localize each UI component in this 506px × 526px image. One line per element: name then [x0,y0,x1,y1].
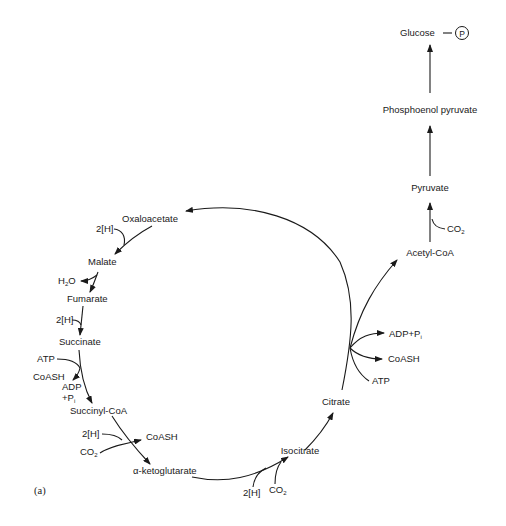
glucose-phosphate-node: Glucose P [400,27,469,40]
h2o-label: H2O [58,275,76,287]
phosphate-symbol: P [459,29,465,39]
succinyl-coa-label: Succinyl-CoA [70,405,128,416]
atp-succinate-label: ATP [37,353,55,364]
co2-akg-label: CO2 [80,446,98,458]
panel-label: (a) [34,485,46,497]
pep-label: Phosphoenol pyruvate [383,104,478,115]
fumarate-label: Fumarate [67,293,108,304]
coash-akg-label: CoASH [146,431,178,442]
pyruvate-label: Pyruvate [411,182,449,193]
adp-pi-citrate-label: ADP+Pi [389,328,422,340]
acetyl-coa-label: Acetyl-CoA [406,247,454,258]
coash-succinate-label: CoASH [33,371,65,382]
co2-isocitrate-label: CO2 [269,484,287,496]
2h-akg-curve [102,434,122,440]
arrow-adp-pi-out [350,333,384,348]
co2-input-pyruvate-curve [432,219,445,229]
arrow-coash-succ [73,368,80,380]
2h-fumarate-label: 2[H] [56,314,73,325]
oxaloacetate-label: Oxaloacetate [122,213,178,224]
arrow-oxaloacetate-to-malate [115,226,152,254]
2h-malate-curve [114,229,125,245]
atp-succ-curve [57,359,80,368]
arc-citrate-to-oxaloacetate [186,208,351,390]
glucose-label: Glucose [400,27,435,38]
co2-pyruvate-label: CO2 [447,223,465,235]
atp-input-curve [350,348,369,381]
arrow-coash-out [350,348,382,359]
co2-iso-curve [275,462,281,484]
isocitrate-label: Isocitrate [281,445,320,456]
2h-iso-curve [253,468,266,487]
malate-label: Malate [88,256,117,267]
metabolic-pathway-diagram: Glucose P Phosphoenol pyruvate Pyruvate … [0,0,506,526]
coash-citrate-label: CoASH [388,353,420,364]
2h-malate-label: 2[H] [96,223,113,234]
arrow-succinate-to-succinylcoa [79,350,92,403]
arrow-fumarate-to-succinate [80,306,83,335]
adp-succinate-label: ADP [62,381,82,392]
2h-isocitrate-label: 2[H] [243,487,260,498]
succinate-label: Succinate [59,336,101,347]
alpha-ketoglutarate-label: α-ketoglutarate [133,465,197,476]
arrow-akg-to-isocitrate [192,457,288,480]
arrow-succinylcoa-to-akg [112,416,150,464]
citrate-label: Citrate [322,396,350,407]
pi-succinate-label: +Pi [62,392,75,404]
2h-akg-label: 2[H] [82,428,99,439]
atp-citrate-label: ATP [372,375,390,386]
